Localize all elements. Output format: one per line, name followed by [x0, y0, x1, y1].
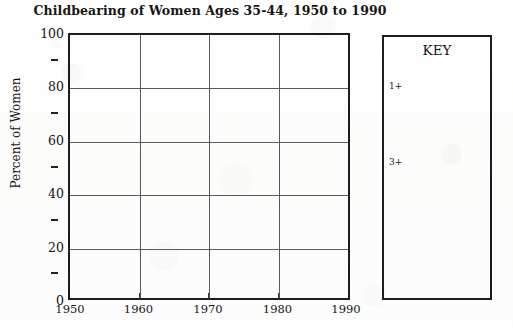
x-tick-label-1960: 1960	[109, 302, 169, 316]
gridline-v-1960	[140, 35, 141, 298]
x-tick-label-1990: 1990	[316, 302, 376, 316]
x-axis-ticks: 1950 1960 1970 1980 1990	[68, 300, 350, 324]
plot-area	[68, 33, 350, 300]
legend-key-box: KEY 1+ 3+	[382, 35, 492, 300]
legend-title: KEY	[384, 42, 490, 58]
gridline-v-1980	[279, 35, 280, 298]
y-tick-minor-10	[51, 272, 58, 274]
chart-title: Childbearing of Women Ages 35-44, 1950 t…	[0, 3, 420, 18]
y-tick-minor-90	[51, 59, 58, 61]
chart-figure: Childbearing of Women Ages 35-44, 1950 t…	[0, 0, 513, 328]
y-tick-minor-70	[51, 112, 58, 114]
y-tick-minor-50	[51, 166, 58, 168]
legend-entry-3plus: 3+	[389, 157, 402, 167]
y-tick-label-80: 80	[18, 79, 64, 94]
y-tick-label-40: 40	[18, 186, 64, 201]
x-tick-mark-1980	[278, 293, 279, 300]
y-tick-label-100: 100	[18, 26, 64, 41]
legend-entry-1plus: 1+	[389, 81, 402, 91]
y-tick-minor-30	[51, 219, 58, 221]
x-tick-mark-1970	[208, 293, 209, 300]
gridline-v-1970	[209, 35, 210, 298]
x-tick-mark-1960	[139, 293, 140, 300]
plot-gridlines	[70, 35, 348, 298]
y-tick-label-20: 20	[18, 239, 64, 254]
x-tick-label-1970: 1970	[178, 302, 238, 316]
x-tick-label-1980: 1980	[248, 302, 308, 316]
y-tick-label-60: 60	[18, 132, 64, 147]
x-tick-label-1950: 1950	[40, 302, 100, 316]
y-axis-ticks: 100 80 60 40 20 0	[12, 33, 64, 300]
